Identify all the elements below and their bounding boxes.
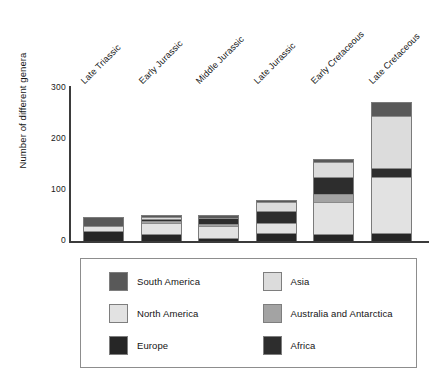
bar-middle-jurassic	[198, 215, 239, 241]
bar-late-jurassic	[256, 200, 297, 241]
x-axis-line	[69, 241, 429, 243]
bar-segment-asia	[372, 117, 411, 168]
legend-item-australia-and-antarctica[interactable]: Australia and Antarctica	[263, 304, 417, 323]
bar-segment-north-america	[372, 178, 411, 234]
bar-segment-north-america	[142, 224, 181, 234]
category-label-late-cretaceous: Late Cretaceous	[366, 31, 421, 86]
bar-segment-south-america	[372, 103, 411, 117]
legend-label: Australia and Antarctica	[291, 308, 393, 319]
legend-label: Asia	[291, 276, 310, 287]
bar-segment-africa	[314, 178, 353, 194]
color-swatch-icon	[263, 304, 282, 323]
bar-segment-north-america	[199, 227, 238, 239]
legend-label: Europe	[137, 340, 168, 351]
bar-segment-africa	[257, 212, 296, 224]
bar-segment-europe	[84, 232, 123, 241]
bar-early-jurassic	[141, 215, 182, 241]
bar-segment-europe	[199, 239, 238, 241]
color-swatch-icon	[263, 336, 282, 355]
legend-item-asia[interactable]: Asia	[263, 272, 417, 291]
bar-segment-europe	[257, 234, 296, 241]
bar-segment-australia-and-antarctica	[314, 195, 353, 204]
bar-segment-north-america	[314, 203, 353, 235]
category-label-late-jurassic: Late Jurassic	[251, 41, 296, 86]
bar-chart: Number of different genera 300 200 100 0…	[0, 0, 437, 379]
bar-early-cretaceous	[313, 159, 354, 241]
y-tick-0: 0	[38, 235, 66, 245]
category-label-middle-jurassic: Middle Jurassic	[194, 34, 246, 86]
legend-item-north-america[interactable]: North America	[109, 304, 263, 323]
bar-segment-europe	[142, 235, 181, 241]
legend-label: Africa	[291, 340, 316, 351]
category-label-early-jurassic: Early Jurassic	[136, 38, 184, 86]
plot-area	[71, 86, 429, 241]
color-swatch-icon	[263, 272, 282, 291]
y-tick-300: 300	[38, 82, 66, 92]
bar-late-cretaceous	[371, 102, 412, 241]
category-label-late-triassic: Late Triassic	[79, 42, 123, 86]
y-axis-title: Number of different genera	[17, 26, 28, 196]
bar-segment-europe	[314, 235, 353, 241]
color-swatch-icon	[109, 272, 128, 291]
legend-label: North America	[137, 308, 199, 319]
y-tick-200: 200	[38, 133, 66, 143]
bar-segment-africa	[372, 169, 411, 178]
legend-item-africa[interactable]: Africa	[263, 336, 417, 355]
bar-segment-south-america	[84, 218, 123, 227]
color-swatch-icon	[109, 336, 128, 355]
legend-item-south-america[interactable]: South America	[109, 272, 263, 291]
bar-segment-asia	[314, 163, 353, 178]
legend-item-europe[interactable]: Europe	[109, 336, 263, 355]
chart-legend: South AmericaAsiaNorth AmericaAustralia …	[80, 258, 417, 368]
y-tick-100: 100	[38, 184, 66, 194]
bar-late-triassic	[83, 217, 124, 241]
category-label-early-cretaceous: Early Cretaceous	[309, 29, 366, 86]
bar-segment-north-america	[257, 224, 296, 235]
color-swatch-icon	[109, 304, 128, 323]
legend-label: South America	[137, 276, 200, 287]
bar-segment-europe	[372, 234, 411, 241]
bar-segment-asia	[257, 203, 296, 213]
